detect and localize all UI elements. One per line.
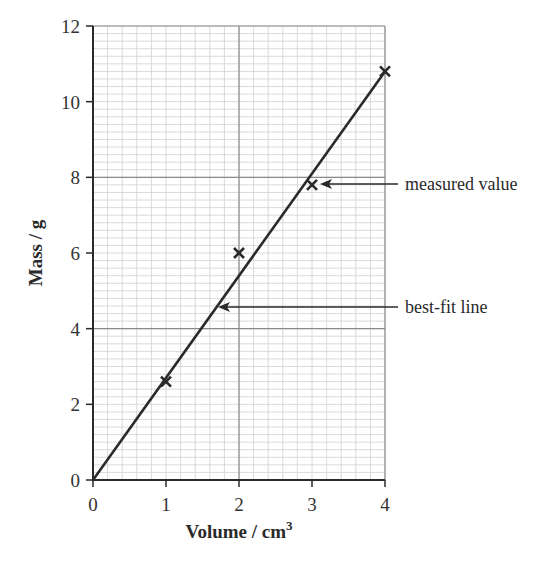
x-tick-label: 1 <box>161 494 171 515</box>
x-tick-label: 0 <box>88 494 98 515</box>
y-tick-label: 8 <box>71 167 81 188</box>
x-tick-label: 2 <box>234 494 244 515</box>
measured-value-label: measured value <box>405 174 517 194</box>
x-tick-label: 4 <box>380 494 390 515</box>
y-axis-title: Mass / g <box>25 219 46 286</box>
y-tick-label: 10 <box>61 92 80 113</box>
y-tick-label: 12 <box>61 16 80 37</box>
y-tick-label: 2 <box>71 394 81 415</box>
x-tick-label: 3 <box>307 494 317 515</box>
mass-volume-chart: 01234024681012 measured valuebest-fit li… <box>0 0 545 563</box>
best-fit-line-label: best-fit line <box>405 297 487 317</box>
y-tick-label: 4 <box>71 319 81 340</box>
y-tick-label: 6 <box>71 243 81 264</box>
y-tick-label: 0 <box>71 470 81 491</box>
measured-value-arrow <box>320 179 398 189</box>
best-fit-line-arrow <box>218 302 398 312</box>
x-axis-title: Volume / cm3 <box>185 518 293 542</box>
